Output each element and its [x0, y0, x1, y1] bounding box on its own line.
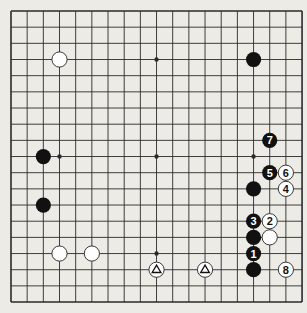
white-stone[interactable] — [52, 52, 67, 67]
white-stone[interactable] — [149, 262, 164, 277]
star-point — [154, 57, 158, 61]
white-stone[interactable]: 8 — [278, 262, 293, 277]
white-stone[interactable] — [52, 246, 67, 261]
black-stone[interactable]: 1 — [246, 246, 261, 261]
star-point — [154, 251, 158, 255]
white-stone[interactable]: 2 — [262, 214, 277, 229]
stone-disc — [246, 181, 261, 196]
move-number: 6 — [283, 167, 289, 179]
star-point — [154, 154, 158, 158]
move-number: 5 — [267, 167, 273, 179]
black-stone[interactable] — [36, 149, 51, 164]
white-stone[interactable] — [84, 246, 99, 261]
stone-disc — [52, 246, 67, 261]
move-number: 2 — [267, 215, 273, 227]
black-stone[interactable] — [246, 262, 261, 277]
black-stone[interactable] — [246, 52, 261, 67]
black-stone[interactable]: 3 — [246, 214, 261, 229]
white-stone[interactable]: 4 — [278, 181, 293, 196]
stone-disc — [36, 197, 51, 212]
white-stone[interactable]: 6 — [278, 165, 293, 180]
white-stone[interactable] — [197, 262, 212, 277]
black-stone[interactable] — [246, 230, 261, 245]
black-stone[interactable]: 7 — [262, 133, 277, 148]
move-number: 3 — [250, 215, 256, 227]
black-stone[interactable] — [246, 181, 261, 196]
black-stone[interactable]: 5 — [262, 165, 277, 180]
stone-disc — [36, 149, 51, 164]
stones-layer: 75643218 — [36, 52, 294, 277]
white-stone[interactable] — [262, 230, 277, 245]
move-number: 7 — [267, 134, 273, 146]
stone-disc — [84, 246, 99, 261]
stone-disc — [246, 230, 261, 245]
star-point — [251, 154, 255, 158]
go-board[interactable]: 75643218 — [0, 0, 307, 313]
star-point — [57, 154, 61, 158]
stone-disc — [246, 262, 261, 277]
stone-disc — [246, 52, 261, 67]
move-number: 4 — [283, 183, 290, 195]
stone-disc — [52, 52, 67, 67]
move-number: 1 — [250, 248, 256, 260]
move-number: 8 — [283, 264, 289, 276]
black-stone[interactable] — [36, 197, 51, 212]
stone-disc — [262, 230, 277, 245]
